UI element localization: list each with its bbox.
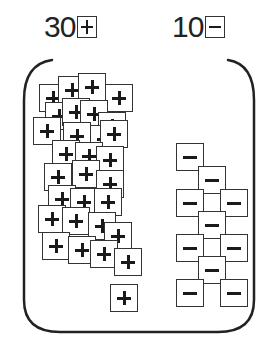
plus-tile [110,284,138,312]
plus-tile [42,232,70,260]
minus-tile [220,279,248,307]
plus-tile [100,120,128,148]
plus-tile [105,84,133,112]
plus-tile [114,248,142,276]
plus-tile [78,73,106,101]
plus-tile [62,207,90,235]
minus-tile [176,279,204,307]
